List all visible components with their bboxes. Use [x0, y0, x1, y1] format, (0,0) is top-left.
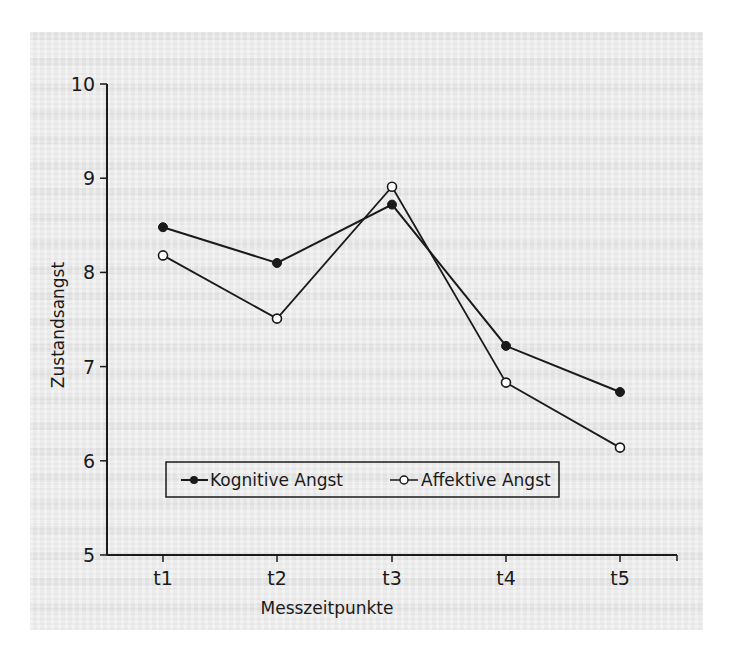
legend-item-kognitive: Kognitive Angst — [181, 470, 343, 490]
x-ticks: t1t2t3t4t5 — [153, 555, 630, 589]
legend: Kognitive Angst Affektive Angst — [166, 462, 559, 497]
filled-circle-marker-icon — [616, 388, 625, 397]
x-tick-label: t5 — [610, 567, 630, 589]
open-circle-marker-icon — [273, 314, 282, 323]
filled-circle-marker-icon — [388, 200, 397, 209]
y-tick-label: 10 — [71, 73, 95, 95]
axes — [107, 84, 677, 561]
open-circle-marker-icon — [616, 443, 625, 452]
series — [159, 182, 625, 452]
series-affektive-angst — [159, 182, 625, 452]
legend-label-affektive: Affektive Angst — [421, 470, 551, 490]
line-chart: 5678910 t1t2t3t4t5 Messzeitpunkte Zustan… — [0, 0, 729, 659]
filled-circle-marker-icon — [502, 341, 511, 350]
open-circle-marker-icon — [159, 251, 168, 260]
y-tick-label: 6 — [83, 450, 95, 472]
y-tick-label: 9 — [83, 167, 95, 189]
series-kognitive-angst — [159, 200, 625, 396]
x-tick-label: t4 — [496, 567, 516, 589]
legend-item-affektive: Affektive Angst — [390, 470, 551, 490]
open-circle-marker-icon — [400, 476, 408, 484]
x-tick-label: t2 — [267, 567, 287, 589]
legend-label-kognitive: Kognitive Angst — [210, 470, 343, 490]
filled-circle-marker-icon — [159, 223, 168, 232]
y-tick-label: 8 — [83, 261, 95, 283]
x-axis-label: Messzeitpunkte — [261, 598, 394, 618]
x-tick-label: t3 — [382, 567, 402, 589]
series-line — [163, 187, 620, 448]
y-tick-label: 7 — [83, 356, 95, 378]
y-axis-label: Zustandsangst — [48, 262, 68, 389]
open-circle-marker-icon — [502, 378, 511, 387]
filled-circle-marker-icon — [190, 476, 198, 484]
y-ticks: 5678910 — [71, 73, 107, 566]
filled-circle-marker-icon — [273, 259, 282, 268]
y-tick-label: 5 — [83, 544, 95, 566]
x-tick-label: t1 — [153, 567, 173, 589]
series-line — [163, 205, 620, 392]
open-circle-marker-icon — [388, 182, 397, 191]
